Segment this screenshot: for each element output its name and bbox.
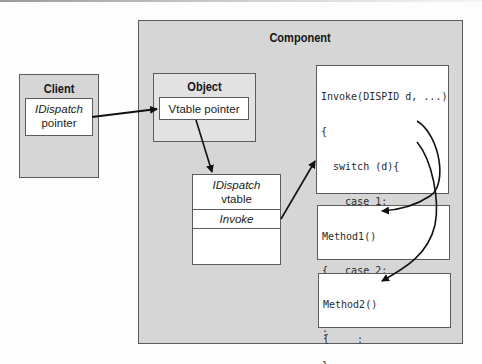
arrow-case1-to-method1	[382, 121, 440, 211]
arrow-case2-to-method2	[382, 142, 436, 281]
arrow-vtable-pointer-to-vtable	[196, 120, 212, 172]
arrow-client-to-vtable-pointer	[92, 109, 157, 117]
arrows-layer	[0, 0, 482, 364]
arrow-invoke-entry-to-invoke-function	[281, 161, 315, 219]
